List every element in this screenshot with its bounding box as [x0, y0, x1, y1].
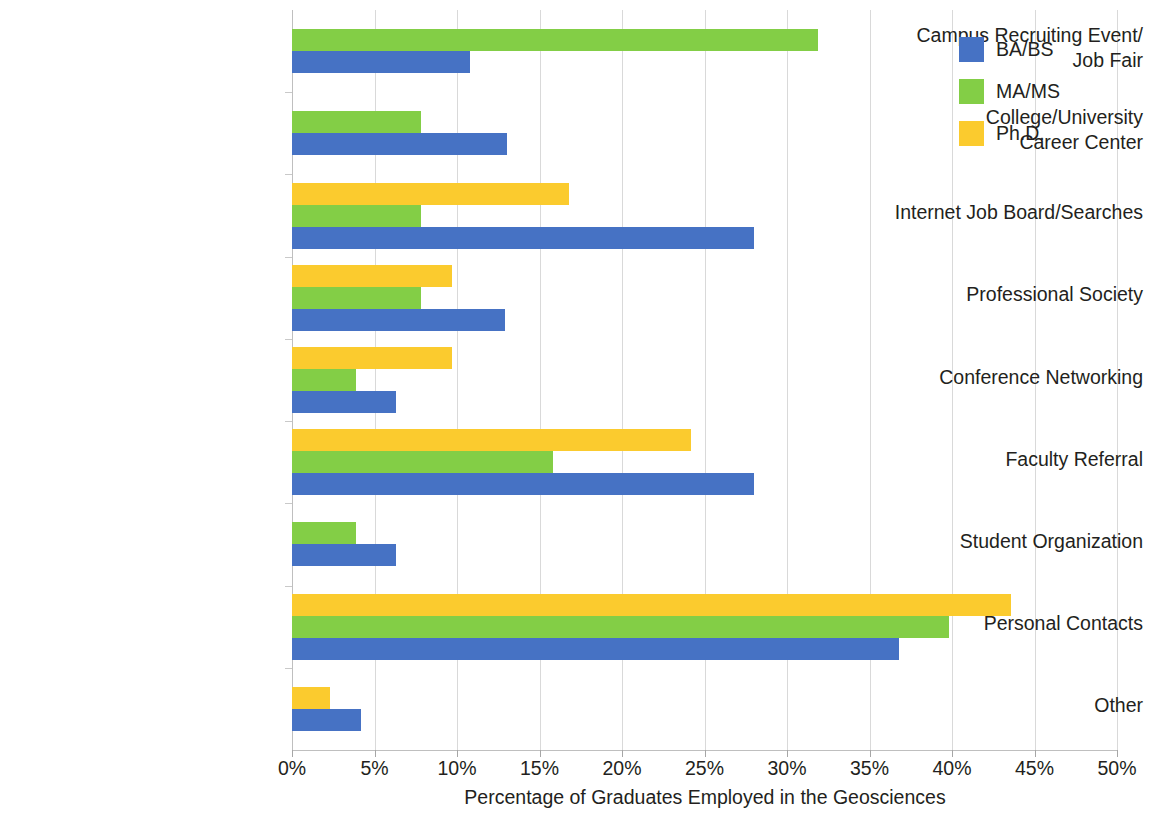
category-label: Professional Society [873, 282, 1153, 307]
bar-babs-0 [292, 51, 470, 73]
y-tick-mark [285, 339, 292, 340]
category-label: Faculty Referral [873, 447, 1153, 472]
x-tick-mark [375, 750, 376, 757]
legend-item-ma-ms: MA/MS [959, 70, 1129, 112]
legend-swatch-icon [959, 79, 984, 104]
x-tick-label: 0% [252, 757, 332, 780]
y-tick-mark [285, 668, 292, 669]
category-label: Conference Networking [873, 365, 1153, 390]
bar-mams-2 [292, 205, 421, 227]
bar-chart: 0%5%10%15%20%25%30%35%40%45%50% Campus R… [0, 0, 1153, 815]
x-tick-label: 10% [417, 757, 497, 780]
x-tick-mark [870, 750, 871, 757]
bar-mams-5 [292, 451, 553, 473]
chart-legend: BA/BS MA/MS Ph.D. [959, 28, 1129, 154]
legend-label: MA/MS [996, 80, 1060, 103]
x-tick-label: 15% [500, 757, 580, 780]
bar-phd-4 [292, 347, 452, 369]
bar-phd-2 [292, 183, 569, 205]
x-tick-label: 40% [912, 757, 992, 780]
x-tick-label: 50% [1077, 757, 1153, 780]
legend-item-phd: Ph.D. [959, 112, 1129, 154]
bar-babs-2 [292, 227, 754, 249]
bar-babs-6 [292, 544, 396, 566]
x-tick-mark [622, 750, 623, 757]
legend-label: BA/BS [996, 38, 1053, 61]
x-tick-mark [1117, 750, 1118, 757]
bar-phd-5 [292, 429, 691, 451]
x-tick-mark [787, 750, 788, 757]
bar-mams-4 [292, 369, 356, 391]
x-tick-mark [952, 750, 953, 757]
bar-babs-5 [292, 473, 754, 495]
x-axis-title: Percentage of Graduates Employed in the … [292, 786, 1118, 809]
bar-phd-8 [292, 687, 330, 709]
x-tick-mark [457, 750, 458, 757]
y-tick-mark [285, 421, 292, 422]
x-tick-label: 30% [747, 757, 827, 780]
category-label: Internet Job Board/Searches [873, 200, 1153, 225]
bar-babs-7 [292, 638, 899, 660]
legend-swatch-icon [959, 37, 984, 62]
bar-babs-3 [292, 309, 505, 331]
legend-item-ba-bs: BA/BS [959, 28, 1129, 70]
bar-babs-4 [292, 391, 396, 413]
x-tick-mark [540, 750, 541, 757]
x-tick-label: 5% [335, 757, 415, 780]
bar-babs-1 [292, 133, 507, 155]
category-label: Personal Contacts [873, 611, 1153, 636]
x-tick-label: 35% [830, 757, 910, 780]
y-tick-mark [285, 92, 292, 93]
bar-mams-0 [292, 29, 818, 51]
x-tick-mark [1035, 750, 1036, 757]
bar-mams-3 [292, 287, 421, 309]
x-tick-mark [292, 750, 293, 757]
x-tick-label: 25% [665, 757, 745, 780]
category-label: Student Organization [873, 529, 1153, 554]
bar-mams-7 [292, 616, 949, 638]
y-tick-mark [285, 503, 292, 504]
x-tick-label: 20% [582, 757, 662, 780]
x-tick-label: 45% [995, 757, 1075, 780]
y-tick-mark [285, 586, 292, 587]
bar-babs-8 [292, 709, 361, 731]
legend-label: Ph.D. [996, 122, 1045, 145]
legend-swatch-icon [959, 121, 984, 146]
category-label: Other [873, 693, 1153, 718]
x-tick-mark [705, 750, 706, 757]
bar-mams-6 [292, 522, 356, 544]
y-tick-mark [285, 257, 292, 258]
bar-mams-1 [292, 111, 421, 133]
bar-phd-3 [292, 265, 452, 287]
y-tick-mark [285, 174, 292, 175]
